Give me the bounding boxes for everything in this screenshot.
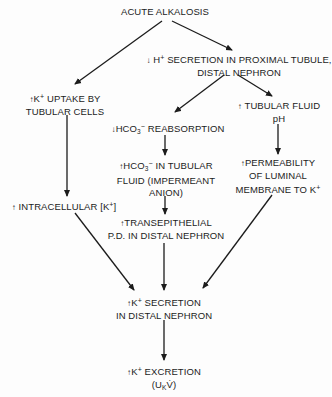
node-k-secretion: ↑K+ SECRETION IN DISTAL NEPHRON <box>116 295 212 322</box>
node-h-secretion: ↓ H+ SECRETION IN PROXIMAL TUBULE, DISTA… <box>146 52 331 79</box>
node-hco3-reabsorption: ↓HCO3− REABSORPTION <box>112 121 225 138</box>
node-intracellular-k: ↑ INTRACELLULAR [K+] <box>12 199 117 214</box>
node-acute-alkalosis: ACUTE ALKALOSIS <box>121 6 209 18</box>
node-tubular-fluid-ph: ↑ TUBULAR FLUID pH <box>238 100 320 125</box>
node-hco3-tubular-fluid: ↑HCO3− IN TUBULAR FLUID (IMPERMEANT ANIO… <box>117 158 215 199</box>
node-transepithelial-pd: ↑TRANSEPITHELIAL P.D. IN DISTAL NEPHRON <box>108 217 225 242</box>
node-label: ACUTE ALKALOSIS <box>121 6 209 18</box>
edge-alkalosis-to-h-secretion <box>172 21 232 50</box>
down-arrow-icon: ↓ <box>146 56 150 65</box>
node-permeability: ↑PERMEABILITY OF LUMINAL MEMBRANE TO K+ <box>236 157 321 196</box>
node-k-excretion: ↑K+ EXCRETION (UKV̇) <box>127 364 201 394</box>
edge-h-secretion-to-hco3-reabsorption <box>175 75 224 112</box>
node-k-uptake: ↑K+ UPTAKE BY TUBULAR CELLS <box>26 91 104 118</box>
